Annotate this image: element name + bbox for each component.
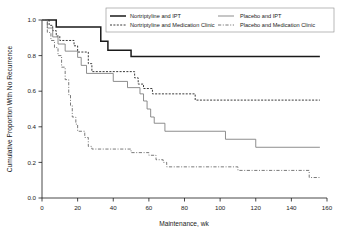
- y-tick-label: 1.0: [27, 16, 36, 23]
- y-tick-label: 0.6: [27, 87, 36, 94]
- x-tick-label: 120: [251, 204, 262, 211]
- kaplan-meier-chart: 0.00.20.40.60.81.0 Cumulative Proportion…: [0, 0, 341, 233]
- legend-label-4: Placebo and Medication Clinic: [240, 22, 315, 28]
- x-tick-label: 0: [40, 204, 44, 211]
- x-tick-label: 80: [181, 204, 188, 211]
- x-axis-title: Maintenance, wk: [159, 220, 209, 227]
- y-tick-label: 0.2: [27, 159, 36, 166]
- x-tick-label: 160: [322, 204, 333, 211]
- legend-label-1: Nortriptyline and IPT: [130, 13, 182, 19]
- y-tick-label: 0.0: [27, 194, 36, 201]
- chart-figure: 0.00.20.40.60.81.0 Cumulative Proportion…: [0, 0, 341, 233]
- x-tick-label: 100: [215, 204, 226, 211]
- y-tick-label: 0.4: [27, 123, 36, 130]
- x-tick-label: 40: [110, 204, 117, 211]
- x-tick-label: 140: [286, 204, 297, 211]
- y-tick-label: 0.8: [27, 52, 36, 59]
- y-axis-title: Cumulative Proportion With No Recurrence: [6, 45, 14, 172]
- legend-label-2: Nortriptyline and Medication Clinic: [130, 22, 215, 28]
- x-tick-label: 60: [145, 204, 152, 211]
- x-tick-label: 20: [74, 204, 81, 211]
- legend-label-3: Placebo and IPT: [240, 13, 282, 19]
